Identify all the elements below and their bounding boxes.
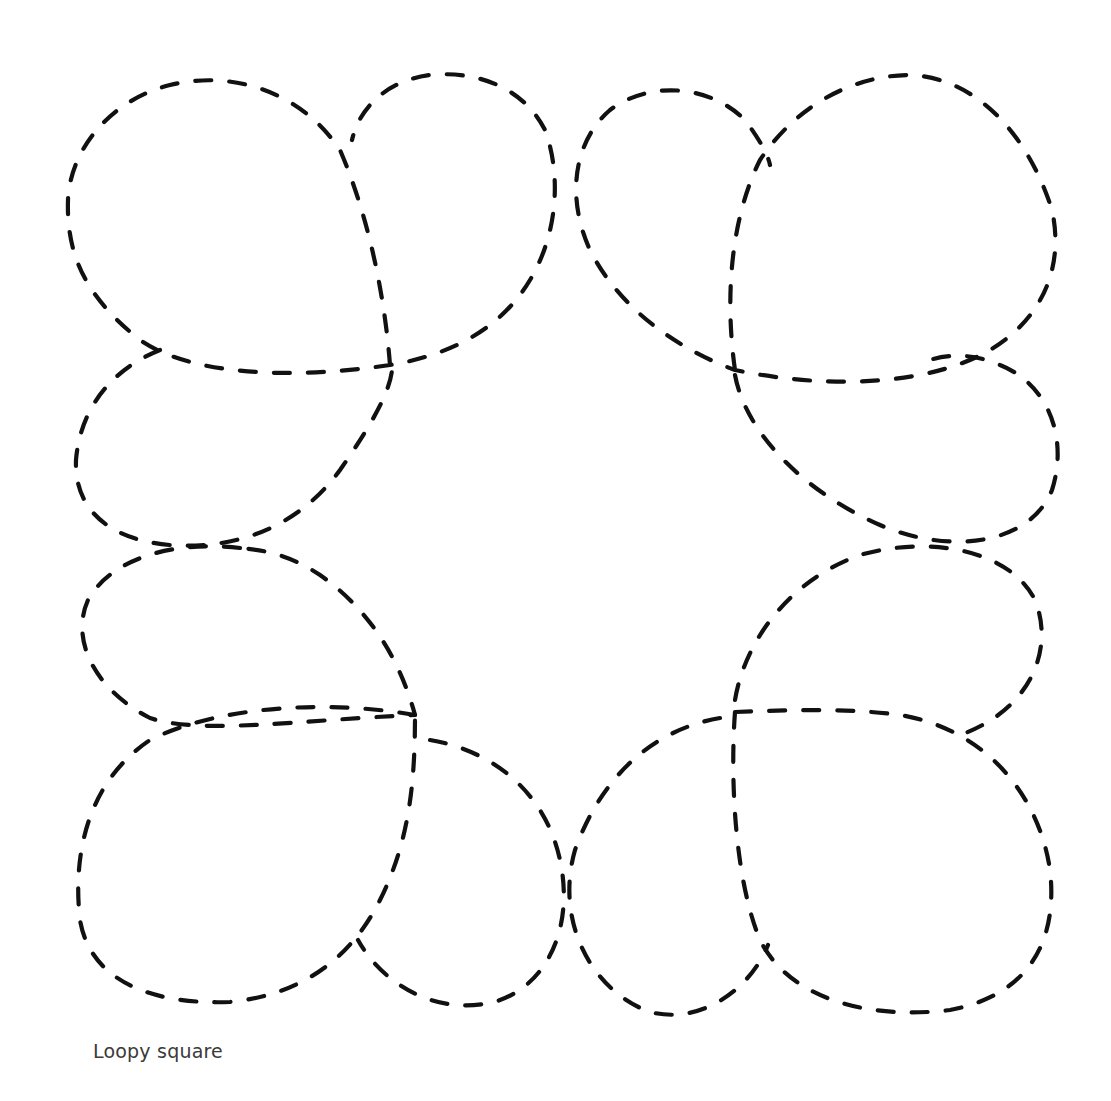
loop-top-left-large [68,74,555,373]
loop-bottom-left-large [78,707,415,1002]
loop-right-upper-small [735,356,1058,542]
loop-top-right-large [576,75,1055,382]
loop-left-lower-small [82,546,415,726]
loop-bottom-left-small [358,740,564,1005]
loop-bottom-right-small [569,718,768,1015]
figure-caption: Loopy square [93,1040,223,1062]
loopy-square-diagram [0,0,1111,1101]
loop-bottom-right-large [733,710,1051,1012]
loop-right-lower-small [735,546,1042,735]
loop-left-upper-small [76,350,392,546]
